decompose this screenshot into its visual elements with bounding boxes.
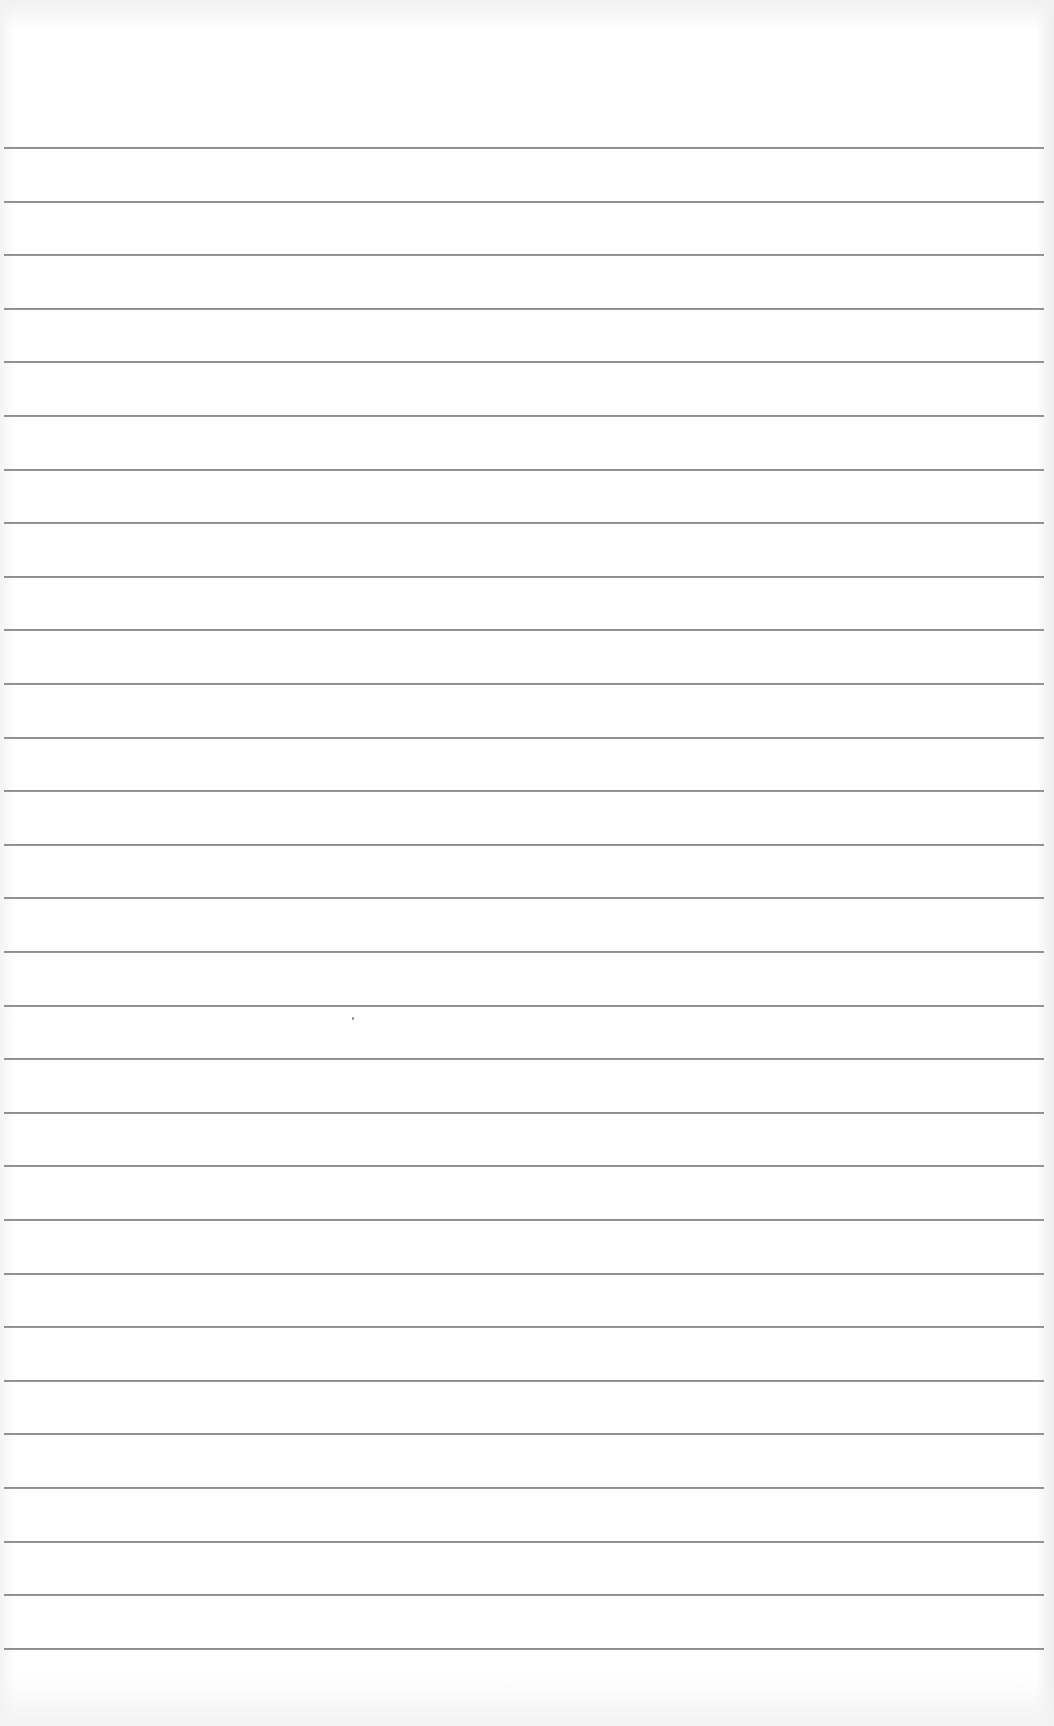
paper-speck [352, 1017, 354, 1020]
ruled-line [4, 576, 1044, 578]
ruled-line [4, 1273, 1044, 1275]
ruled-line [4, 201, 1044, 203]
ruled-line [4, 1594, 1044, 1596]
ruled-line [4, 1005, 1044, 1007]
ruled-line [4, 254, 1044, 256]
ruled-line [4, 1648, 1044, 1650]
ruled-line [4, 147, 1044, 149]
bottom-edge-shadow [0, 1676, 1054, 1726]
ruled-line [4, 683, 1044, 685]
ruled-line [4, 1433, 1044, 1435]
ruled-line [4, 1487, 1044, 1489]
ruled-line [4, 361, 1044, 363]
ruled-line [4, 897, 1044, 899]
ruled-line [4, 469, 1044, 471]
ruled-line [4, 1112, 1044, 1114]
ruled-line [4, 1058, 1044, 1060]
ruled-line [4, 1380, 1044, 1382]
ruled-line [4, 790, 1044, 792]
ruled-line [4, 1165, 1044, 1167]
ruled-line [4, 522, 1044, 524]
ruled-line [4, 308, 1044, 310]
ruled-line [4, 737, 1044, 739]
ruled-line [4, 629, 1044, 631]
top-edge-shadow [0, 0, 1054, 30]
ruled-line [4, 1326, 1044, 1328]
ruled-line [4, 1219, 1044, 1221]
lined-paper-sheet [0, 0, 1054, 1726]
ruled-line [4, 1541, 1044, 1543]
ruled-line [4, 844, 1044, 846]
ruled-line [4, 951, 1044, 953]
ruled-line [4, 415, 1044, 417]
